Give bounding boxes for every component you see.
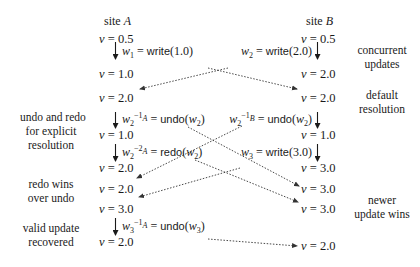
site-b-name: B — [326, 14, 333, 28]
message-arrow-w1-to-b — [208, 68, 297, 89]
site-a-state: v = 2.0 — [99, 162, 134, 175]
site-a-op-redo-w2: w2−2A = redo(w2) — [122, 146, 202, 159]
site-a-state: v = 1.0 — [99, 129, 134, 142]
site-a-header: site A — [104, 15, 131, 28]
site-b-state: v = 3.0 — [301, 162, 336, 175]
site-a-op-undo-w2: w2−1A = undo(w2) — [122, 113, 205, 126]
annotation-explicit-resolution: undo and redo for explicit resolution — [20, 110, 82, 152]
site-b-state: v = 2.0 — [301, 240, 336, 253]
site-b-state: v = 1.0 — [301, 129, 336, 142]
site-a-state: v = 2.0 — [99, 183, 134, 196]
message-arrow-w3-to-a — [139, 168, 240, 197]
site-a-state: v = 3.0 — [99, 203, 134, 216]
annotation-newer-update-wins: newer update wins — [347, 193, 417, 221]
site-b-header: site B — [306, 15, 333, 28]
site-a-state: v = 1.0 — [99, 68, 134, 81]
site-a-state: v = 2.0 — [99, 236, 134, 249]
annotation-valid-update-recovered: valid update recovered — [20, 221, 82, 249]
site-b-op-write-w3: w3 = write(3.0) — [241, 146, 312, 159]
message-arrow-w2-to-a — [140, 68, 228, 89]
site-b-state: v = 2.0 — [301, 92, 336, 105]
site-a-name: A — [124, 14, 131, 28]
site-b-prefix: site — [306, 14, 323, 28]
site-a-prefix: site — [104, 14, 121, 28]
site-b-state: v = 3.0 — [301, 203, 336, 216]
message-arrow-undo-w3-to-b — [208, 239, 297, 246]
annotation-redo-wins: redo wins over undo — [20, 177, 82, 205]
message-arrow-redo-a-to-b — [195, 160, 298, 202]
site-a-op-write-w1: w1 = write(1.0) — [122, 45, 193, 58]
site-a-op-undo-w3: w3−1A = undo(w3) — [122, 220, 205, 233]
annotation-default-resolution: default resolution — [347, 88, 417, 116]
site-b-state: v = 2.0 — [301, 68, 336, 81]
annotation-concurrent-updates: concurrent updates — [347, 43, 417, 71]
site-b-state: v = 3.0 — [301, 183, 336, 196]
site-b-op-write-w2: w2 = write(2.0) — [241, 45, 312, 58]
site-a-state: v = 2.0 — [99, 92, 134, 105]
site-b-op-undo-w2: w2−1B = undo(w2) — [229, 113, 312, 126]
